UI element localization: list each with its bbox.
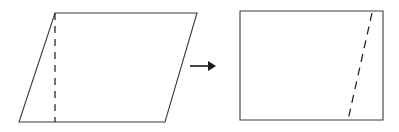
diagram-canvas [0,0,399,132]
arrow-head-icon [208,61,216,71]
shear-transformation-diagram [0,0,399,132]
transformation-arrow [190,61,216,71]
rectangle-figure [240,11,383,120]
parallelogram-outline [19,13,197,122]
rectangle-outline [240,11,383,120]
parallelogram-figure [19,13,197,122]
